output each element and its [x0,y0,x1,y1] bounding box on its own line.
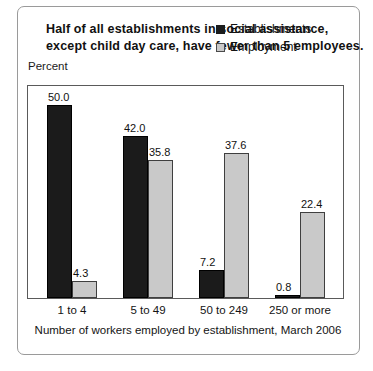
bar-establishments-1 [123,136,148,298]
bar-establishments-0 [47,105,72,298]
bar-value-label: 37.6 [225,139,246,151]
x-tick-label-0: 1 to 4 [36,304,108,316]
bar-employment-2 [224,153,249,298]
bar-value-label: 22.4 [301,198,322,210]
bar-value-label: 50.0 [48,91,69,103]
bar-value-label: 4.3 [73,267,88,279]
legend-swatch-establishments-icon [216,25,225,34]
bar-employment-3 [300,212,325,298]
x-tick-label-3: 250 or more [264,304,336,316]
bar-value-label: 42.0 [124,122,145,134]
bar-establishments-2 [199,270,224,298]
legend-item-employment: Employment [216,39,336,55]
bar-establishments-3 [275,295,300,298]
legend-item-establishments: Establishments [216,21,336,37]
chart-figure: Half of all establishments in social ass… [0,0,373,371]
plot-surface [28,86,343,298]
legend-label-establishments: Establishments [230,22,311,36]
x-tick-label-2: 50 to 249 [188,304,260,316]
bar-value-label: 35.8 [149,146,170,158]
bar-employment-0 [72,281,97,298]
legend-swatch-employment-icon [216,43,225,52]
x-axis-title: Number of workers employed by establishm… [28,324,348,336]
legend-label-employment: Employment [230,40,297,54]
bar-employment-1 [148,160,173,298]
bar-value-label: 0.8 [276,281,291,293]
x-tick-label-1: 5 to 49 [112,304,184,316]
y-axis-label: Percent [28,60,68,72]
bar-value-label: 7.2 [200,256,215,268]
chart-legend: Establishments Employment [216,21,336,57]
